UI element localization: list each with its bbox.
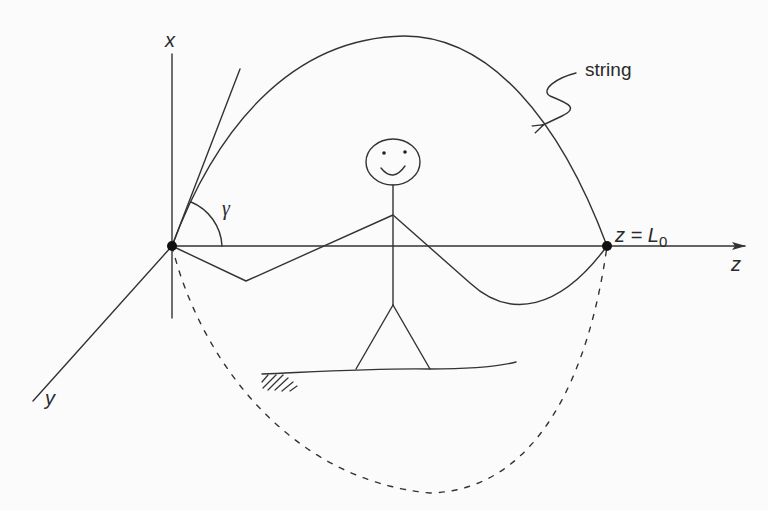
figure-right-leg bbox=[393, 305, 430, 369]
x-axis-label: x bbox=[165, 30, 175, 50]
figure-smile bbox=[381, 166, 405, 175]
endpoint-label: z = L0 bbox=[615, 225, 667, 249]
ground-hatching bbox=[262, 375, 297, 391]
endpoint-label-sub: 0 bbox=[659, 233, 667, 250]
origin-point bbox=[167, 241, 177, 251]
string-label: string bbox=[585, 60, 631, 79]
end-point bbox=[602, 241, 612, 251]
string-lower-path bbox=[172, 215, 607, 304]
figure-left-leg bbox=[356, 305, 393, 369]
endpoint-label-L: L bbox=[648, 224, 659, 246]
endpoint-label-prefix: z = bbox=[615, 224, 648, 246]
y-axis-label: y bbox=[45, 388, 55, 408]
angle-gamma-arc bbox=[191, 202, 222, 246]
angle-gamma-label: γ bbox=[222, 198, 230, 218]
z-axis-label: z bbox=[731, 254, 741, 274]
figure-right-eye bbox=[403, 150, 407, 154]
ground-line bbox=[262, 362, 516, 374]
y-axis bbox=[33, 246, 172, 401]
figure-head bbox=[366, 139, 420, 185]
diagram-canvas: x y z γ string z = L0 bbox=[0, 0, 768, 510]
string-pointer bbox=[543, 73, 576, 125]
string-upper-arc bbox=[172, 36, 607, 246]
diagram-svg bbox=[0, 0, 768, 510]
figure-left-eye bbox=[382, 151, 386, 155]
stick-figure bbox=[356, 139, 430, 369]
